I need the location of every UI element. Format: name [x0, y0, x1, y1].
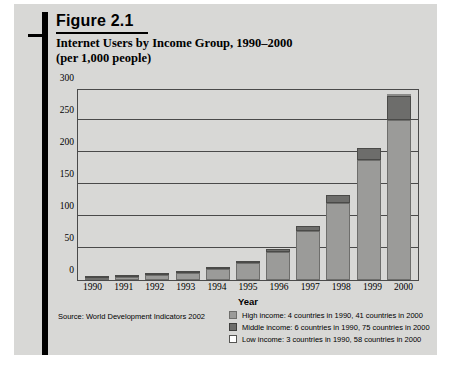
- source-note: Source: World Development Indicators 200…: [58, 312, 205, 321]
- x-axis-tick-label: 1998: [326, 282, 357, 292]
- bar-column: [115, 90, 139, 280]
- legend-item-label: High income: 4 countries in 1990, 41 cou…: [242, 311, 423, 320]
- low-income-swatch: [229, 335, 237, 343]
- x-axis-title: Year: [77, 296, 419, 307]
- figure-label: Figure 2.1: [56, 12, 134, 30]
- chart-plot-wrapper: 050100150200250300 199019911992199319941…: [56, 74, 428, 296]
- chart-legend: High income: 4 countries in 1990, 41 cou…: [229, 310, 430, 346]
- y-axis-tick-label: 200: [48, 137, 74, 147]
- figure-title-line-2: (per 1,000 people): [56, 51, 396, 66]
- x-axis-tick-label: 1994: [201, 282, 232, 292]
- bar-column: [357, 90, 381, 280]
- bar-segment-high-income: [387, 120, 411, 280]
- bar-segment-high-income: [206, 269, 230, 280]
- y-axis-tick-label: 300: [48, 73, 74, 83]
- figure-title: Internet Users by Income Group, 1990–200…: [56, 36, 396, 66]
- bar-segment-high-income: [357, 160, 381, 280]
- bar-column: [145, 90, 169, 280]
- bar-segment-high-income: [326, 203, 350, 280]
- y-axis-tick-labels: 050100150200250300: [48, 89, 74, 281]
- bar-segment-middle-income: [357, 148, 381, 161]
- y-axis-tick-label: 50: [48, 233, 74, 243]
- bar-column: [266, 90, 290, 280]
- bar-segment-high-income: [296, 231, 320, 280]
- x-axis-tick-label: 1997: [295, 282, 326, 292]
- y-axis-tick-label: 100: [48, 201, 74, 211]
- legend-item: High income: 4 countries in 1990, 41 cou…: [229, 310, 430, 321]
- x-axis-tick-label: 1993: [170, 282, 201, 292]
- y-axis-tick-label: 0: [48, 265, 74, 275]
- middle-income-swatch: [229, 323, 237, 331]
- figure-title-line-1: Internet Users by Income Group, 1990–200…: [56, 36, 396, 51]
- x-axis-tick-labels: 1990199119921993199419951996199719981999…: [77, 282, 419, 292]
- y-axis-tick-label: 250: [48, 105, 74, 115]
- legend-item: Middle income: 6 countries in 1990, 75 c…: [229, 322, 430, 333]
- bar-segment-high-income: [115, 277, 139, 280]
- x-axis-tick-label: 1991: [108, 282, 139, 292]
- bar-segment-middle-income: [326, 195, 350, 203]
- bar-segment-high-income: [176, 273, 200, 280]
- bar-segment-high-income: [236, 263, 260, 280]
- legend-item: Low income: 3 countries in 1990, 58 coun…: [229, 334, 430, 345]
- x-axis-tick-label: 1996: [264, 282, 295, 292]
- x-axis-tick-label: 2000: [388, 282, 419, 292]
- bar-column: [296, 90, 320, 280]
- bar-column: [326, 90, 350, 280]
- bar-column: [387, 90, 411, 280]
- chart-plot-area: [77, 89, 419, 281]
- bar-segment-middle-income: [387, 96, 411, 120]
- bar-segment-high-income: [145, 275, 169, 280]
- x-axis-tick-label: 1990: [77, 282, 108, 292]
- bar-series-container: [78, 90, 418, 280]
- bar-column: [236, 90, 260, 280]
- x-axis-tick-label: 1999: [357, 282, 388, 292]
- bar-column: [176, 90, 200, 280]
- y-axis-tick-label: 150: [48, 169, 74, 179]
- gridline: [78, 87, 418, 89]
- bar-segment-high-income: [85, 278, 109, 280]
- figure-card: Figure 2.1 Internet Users by Income Grou…: [14, 4, 437, 355]
- high-income-swatch: [229, 311, 237, 319]
- legend-item-label: Low income: 3 countries in 1990, 58 coun…: [242, 335, 421, 344]
- x-axis-tick-label: 1995: [232, 282, 263, 292]
- figure-label-underline: [56, 32, 148, 34]
- x-axis-tick-label: 1992: [139, 282, 170, 292]
- legend-item-label: Middle income: 6 countries in 1990, 75 c…: [242, 323, 430, 332]
- bar-segment-high-income: [266, 252, 290, 280]
- bar-column: [206, 90, 230, 280]
- bar-column: [85, 90, 109, 280]
